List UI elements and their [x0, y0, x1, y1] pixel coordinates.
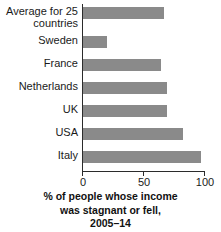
category-label-uk: UK: [0, 104, 78, 116]
x-tick-label-100: 100: [190, 176, 220, 188]
chart-row-sweden: Sweden: [0, 35, 221, 59]
bar-uk: [83, 105, 167, 117]
bar-italy: [83, 151, 201, 163]
x-tick-label-50: 50: [129, 176, 159, 188]
caption-line-2: was stagnant or fell,: [0, 204, 221, 218]
category-label-sweden: Sweden: [0, 35, 78, 47]
bar-sweden: [83, 36, 107, 48]
caption-line-1: % of people whose income: [0, 190, 221, 204]
bar-chart: Average for 25countries Sweden France Ne…: [0, 0, 221, 232]
category-label-italy: Italy: [0, 150, 78, 162]
x-tick-label-0: 0: [68, 176, 98, 188]
caption-line-3: 2005–14: [0, 217, 221, 231]
category-label-average-for-25-countries: Average for 25countries: [0, 6, 78, 29]
y-axis-line: [82, 4, 83, 172]
bar-netherlands: [83, 82, 167, 94]
plot-area: Average for 25countries Sweden France Ne…: [0, 0, 221, 180]
category-label-france: France: [0, 58, 78, 70]
chart-row-usa: USA: [0, 127, 221, 151]
bar-average-for-25-countries: [83, 7, 164, 19]
chart-row-netherlands: Netherlands: [0, 81, 221, 105]
category-label-netherlands: Netherlands: [0, 81, 78, 93]
x-axis-caption: % of people whose income was stagnant or…: [0, 190, 221, 231]
bar-usa: [83, 128, 183, 140]
chart-row-france: France: [0, 58, 221, 82]
chart-row-average-for-25-countries: Average for 25countries: [0, 6, 221, 30]
category-label-usa: USA: [0, 127, 78, 139]
chart-row-uk: UK: [0, 104, 221, 128]
bar-france: [83, 59, 161, 71]
